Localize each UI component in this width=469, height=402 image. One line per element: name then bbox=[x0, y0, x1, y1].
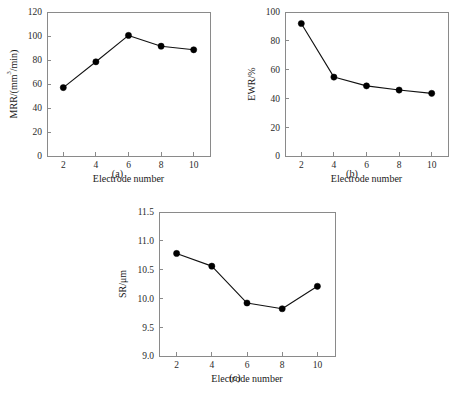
y-tick-label: 10.5 bbox=[137, 265, 154, 275]
data-point bbox=[314, 283, 320, 289]
data-point bbox=[191, 47, 197, 53]
data-point bbox=[279, 306, 285, 312]
data-point bbox=[158, 43, 164, 49]
y-tick-label: 100 bbox=[28, 31, 43, 41]
data-point bbox=[60, 85, 66, 91]
y-tick-label: 60 bbox=[271, 65, 281, 75]
chart-panel-a: 020406080100120246810Electrode numberMRR… bbox=[0, 0, 235, 200]
y-tick-label: 60 bbox=[33, 79, 43, 89]
y-tick-label: 20 bbox=[271, 123, 281, 133]
y-tick-label: 80 bbox=[33, 55, 43, 65]
data-point bbox=[331, 74, 337, 80]
y-tick-label: 0 bbox=[275, 151, 280, 161]
x-tick-label: 8 bbox=[280, 360, 285, 370]
chart-panel-c: 9.09.510.010.511.011.5246810Electrode nu… bbox=[104, 200, 366, 402]
y-tick-label: 9.5 bbox=[142, 323, 154, 333]
panel-caption-b: (b) bbox=[235, 168, 469, 179]
panel-caption-c: (c) bbox=[104, 372, 366, 383]
y-tick-label: 0 bbox=[37, 151, 42, 161]
y-tick-label: 11.5 bbox=[138, 207, 155, 217]
y-tick-label: 20 bbox=[33, 127, 43, 137]
x-tick-label: 6 bbox=[245, 360, 250, 370]
figure-container: 020406080100120246810Electrode numberMRR… bbox=[0, 0, 469, 402]
data-point bbox=[429, 90, 435, 96]
y-axis-label: MRR/(mm3/min) bbox=[5, 50, 21, 119]
y-axis-label: SR/μm bbox=[117, 270, 128, 298]
y-tick-label: 40 bbox=[271, 94, 281, 104]
data-series-line bbox=[63, 35, 193, 87]
x-tick-label: 2 bbox=[174, 360, 179, 370]
y-tick-label: 80 bbox=[271, 36, 281, 46]
plot-frame bbox=[159, 212, 335, 356]
chart-panel-b: 020406080100246810Electrode numberEWR/% … bbox=[235, 0, 469, 200]
y-tick-label: 120 bbox=[28, 7, 43, 17]
data-point bbox=[363, 83, 369, 89]
chart-c-svg: 9.09.510.010.511.011.5246810Electrode nu… bbox=[104, 200, 366, 385]
y-tick-label: 9.0 bbox=[142, 351, 154, 361]
x-tick-label: 10 bbox=[313, 360, 323, 370]
y-tick-label: 40 bbox=[33, 103, 43, 113]
data-point bbox=[125, 32, 131, 38]
y-tick-label: 10.0 bbox=[137, 294, 154, 304]
y-tick-label: 100 bbox=[266, 7, 281, 17]
panel-caption-a: (a) bbox=[0, 168, 235, 179]
y-axis-label: EWR/% bbox=[246, 67, 257, 100]
data-point bbox=[93, 59, 99, 65]
data-point bbox=[174, 250, 180, 256]
y-tick-label: 11.0 bbox=[138, 236, 155, 246]
chart-a-svg: 020406080100120246810Electrode numberMRR… bbox=[0, 0, 235, 185]
data-point bbox=[209, 263, 215, 269]
chart-b-svg: 020406080100246810Electrode numberEWR/% bbox=[235, 0, 469, 185]
x-tick-label: 4 bbox=[209, 360, 214, 370]
data-point bbox=[298, 20, 304, 26]
data-point bbox=[244, 300, 250, 306]
data-point bbox=[396, 87, 402, 93]
